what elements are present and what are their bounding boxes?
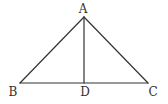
vertex-label-d: D	[80, 85, 90, 99]
triangle-diagram: ABCD	[0, 0, 168, 104]
segment-ac	[84, 17, 148, 83]
segment-ab	[20, 17, 84, 83]
vertex-label-c: C	[148, 85, 157, 99]
vertex-labels: ABCD	[9, 2, 158, 99]
vertex-label-a: A	[78, 2, 88, 16]
segments	[20, 17, 148, 83]
vertex-label-b: B	[9, 85, 18, 99]
